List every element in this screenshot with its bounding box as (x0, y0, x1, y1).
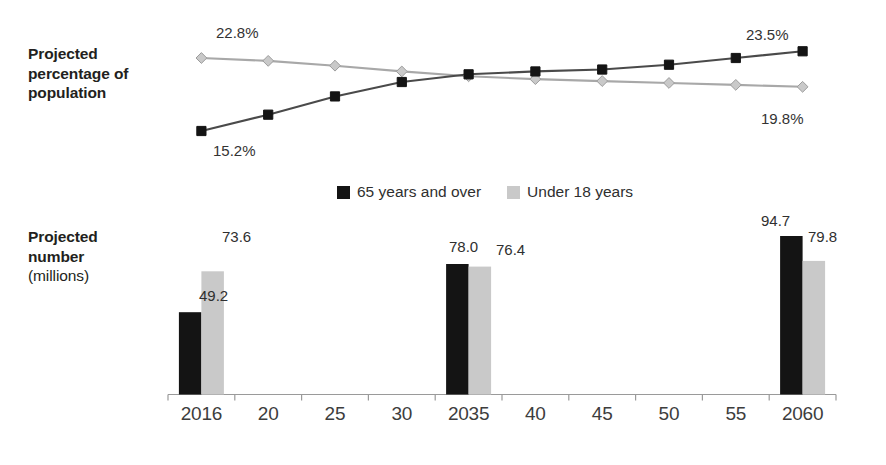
pct-title-line-1: Projected (28, 44, 164, 64)
pct-title-line-2: percentage of (28, 64, 164, 84)
data-point-marker (197, 126, 206, 135)
legend-label-65-and-over: 65 years and over (357, 183, 481, 201)
axis-tick-label-2060: 2060 (782, 406, 823, 422)
line-series-under-18-years (201, 58, 802, 87)
label-under-18-last: 19.8% (761, 111, 804, 127)
axis-tick-label-30: 30 (391, 406, 412, 422)
data-point-marker (263, 55, 274, 66)
figure-root: Projected percentage of population Proje… (0, 0, 886, 465)
bar-chart-axis-ticks (168, 395, 836, 401)
data-point-marker (264, 110, 273, 119)
data-point-marker (397, 77, 406, 86)
legend-item-65-and-over[interactable]: 65 years and over (337, 183, 481, 201)
percentage-axis-title: Projected percentage of population (28, 44, 164, 103)
data-point-marker (664, 78, 675, 89)
line-series-65-and-over (201, 51, 802, 131)
legend-swatch-square-icon (337, 186, 350, 199)
bar-label-2016-over65: 49.2 (199, 288, 228, 304)
bar (803, 261, 826, 395)
legend-label-under-18: Under 18 years (527, 183, 633, 201)
data-point-marker (330, 60, 341, 71)
bar-label-2035-under18: 76.4 (496, 242, 525, 258)
data-point-marker (396, 66, 407, 77)
markers-65-and-over (197, 47, 807, 136)
bar-label-2035-over65: 78.0 (449, 239, 478, 255)
bar (179, 312, 202, 394)
label-65-over-last: 23.5% (746, 27, 789, 43)
legend: 65 years and over Under 18 years (337, 183, 633, 201)
bar (469, 267, 492, 395)
data-point-marker (797, 81, 808, 92)
bar-groups (179, 236, 825, 395)
data-point-marker (330, 92, 339, 101)
data-point-marker (531, 67, 540, 76)
bar-label-2016-under18: 73.6 (222, 229, 251, 245)
data-point-marker (598, 65, 607, 74)
legend-swatch-gray-icon (507, 186, 520, 199)
number-axis-title: Projected number (millions) (28, 227, 168, 286)
data-point-marker (464, 70, 473, 79)
axis-tick-label-25: 25 (325, 406, 346, 422)
axis-tick-label-2016: 2016 (181, 406, 222, 422)
bar (780, 236, 803, 395)
axis-tick-label-40: 40 (525, 406, 546, 422)
num-title-line-1: Projected (28, 227, 168, 247)
data-point-marker (730, 79, 741, 90)
data-point-marker (463, 71, 474, 82)
num-title-units: (millions) (28, 266, 168, 286)
legend-item-under-18[interactable]: Under 18 years (507, 183, 633, 201)
axis-tick-label-45: 45 (592, 406, 613, 422)
bar-label-2060-under18: 79.8 (808, 229, 837, 245)
axis-tick-label-50: 50 (659, 406, 680, 422)
data-point-marker (664, 60, 673, 69)
data-point-marker (731, 53, 740, 62)
axis-tick-label-20: 20 (258, 406, 279, 422)
bar (446, 264, 469, 395)
data-point-marker (530, 74, 541, 85)
markers-under-18-years (196, 53, 808, 93)
data-point-marker (597, 76, 608, 87)
axis-tick-label-55: 55 (725, 406, 746, 422)
label-65-over-first: 15.2% (213, 143, 256, 159)
data-point-marker (196, 53, 207, 64)
data-point-marker (798, 47, 807, 56)
num-title-line-2: number (28, 247, 168, 267)
axis-tick-label-2035: 2035 (448, 406, 489, 422)
bar-label-2060-over65: 94.7 (761, 213, 790, 229)
label-under-18-first: 22.8% (216, 25, 259, 41)
pct-title-line-3: population (28, 83, 164, 103)
